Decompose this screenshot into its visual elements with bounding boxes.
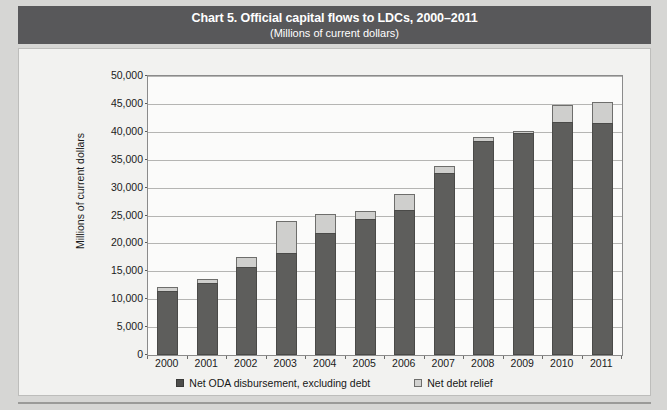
- y-axis-tick-label: 40,000: [75, 125, 143, 137]
- legend-label-net-debt-relief: Net debt relief: [427, 377, 492, 389]
- bar-group-2011: [583, 102, 623, 355]
- chart-legend: Net ODA disbursement, excluding debt Net…: [19, 377, 650, 389]
- bar-segment-net-oda: [355, 219, 376, 355]
- bar-group-2004: [306, 214, 346, 355]
- bar-stack: [394, 194, 415, 355]
- bar-stack: [513, 131, 534, 355]
- page-bottom-divider: [18, 402, 651, 404]
- x-axis-tick-label-2011: 2011: [578, 357, 624, 369]
- x-axis-tick-mark: [345, 356, 346, 359]
- bar-segment-net-debt-relief: [315, 214, 336, 233]
- bar-group-2008: [464, 137, 504, 355]
- x-axis-tick-mark: [463, 356, 464, 359]
- bar-stack: [276, 221, 297, 355]
- y-axis-tick-label: 45,000: [75, 97, 143, 109]
- chart-title-banner: Chart 5. Official capital flows to LDCs,…: [18, 6, 651, 44]
- y-axis-tick-label: 25,000: [75, 209, 143, 221]
- x-axis-tick-mark: [424, 356, 425, 359]
- plot-area: [148, 76, 622, 355]
- bar-segment-net-debt-relief: [592, 102, 613, 124]
- gridline: [148, 76, 622, 77]
- legend-item-net-oda: Net ODA disbursement, excluding debt: [176, 377, 370, 389]
- x-axis-tick-mark: [542, 356, 543, 359]
- y-axis-ticks: 05,00010,00015,00020,00025,00030,00035,0…: [71, 75, 143, 355]
- bar-segment-net-oda: [394, 210, 415, 355]
- x-axis-tick-mark: [266, 356, 267, 359]
- bar-stack: [434, 166, 455, 355]
- bar-segment-net-debt-relief: [552, 105, 573, 122]
- bar-stack: [552, 105, 573, 355]
- bar-segment-net-oda: [552, 122, 573, 355]
- legend-swatch-icon-net-oda: [176, 379, 184, 387]
- bar-segment-net-debt-relief: [276, 221, 297, 253]
- bar-segment-net-debt-relief: [355, 211, 376, 219]
- bar-stack: [157, 287, 178, 355]
- bar-segment-net-oda: [197, 283, 218, 355]
- y-axis-tick-label: 20,000: [75, 236, 143, 248]
- plot-area-frame: [147, 75, 623, 356]
- bar-segment-net-oda: [513, 133, 534, 355]
- chart-card: Millions of current dollars 05,00010,000…: [18, 48, 651, 396]
- bar-group-2007: [425, 166, 465, 355]
- y-axis-tick-label: 15,000: [75, 264, 143, 276]
- bar-group-2000: [148, 287, 188, 355]
- bar-segment-net-debt-relief: [434, 166, 455, 173]
- bar-group-2005: [346, 211, 386, 355]
- y-axis-tick-label: 10,000: [75, 292, 143, 304]
- bar-stack: [315, 214, 336, 355]
- bar-segment-net-oda: [276, 253, 297, 355]
- x-axis-tick-mark: [582, 356, 583, 359]
- bar-segment-net-oda: [592, 123, 613, 355]
- x-axis-tick-mark: [187, 356, 188, 359]
- bar-segment-net-debt-relief: [394, 194, 415, 211]
- bar-group-2003: [267, 221, 307, 355]
- x-axis-tick-mark: [503, 356, 504, 359]
- bar-group-2001: [188, 279, 228, 355]
- x-axis-tick-mark: [226, 356, 227, 359]
- x-axis: 2000200120022003200420052006200720082009…: [147, 356, 623, 372]
- y-axis-tick-label: 5,000: [75, 320, 143, 332]
- bar-segment-net-oda: [315, 233, 336, 355]
- page-title: Chart 5. Official capital flows to LDCs,…: [191, 11, 477, 26]
- bar-stack: [473, 137, 494, 355]
- y-axis-tick-label: 0: [75, 348, 143, 360]
- bar-group-2010: [543, 105, 583, 355]
- x-axis-tick-mark: [384, 356, 385, 359]
- bar-segment-net-oda: [157, 291, 178, 355]
- bar-segment-net-debt-relief: [236, 257, 257, 268]
- x-axis-tick-mark: [305, 356, 306, 359]
- bar-group-2009: [504, 131, 544, 355]
- bar-stack: [355, 211, 376, 355]
- page-subtitle: (Millions of current dollars): [270, 26, 399, 40]
- y-axis-tick-label: 35,000: [75, 153, 143, 165]
- x-axis-tick-mark: [621, 356, 622, 359]
- bar-group-2002: [227, 257, 267, 355]
- x-axis-tick-mark: [147, 356, 148, 359]
- legend-label-net-oda: Net ODA disbursement, excluding debt: [189, 377, 370, 389]
- y-axis-tick-label: 30,000: [75, 181, 143, 193]
- bar-segment-net-oda: [473, 141, 494, 355]
- y-axis-tick-label: 50,000: [75, 69, 143, 81]
- bar-segment-net-oda: [236, 267, 257, 355]
- bar-segment-net-oda: [434, 173, 455, 355]
- bar-stack: [592, 102, 613, 355]
- legend-swatch-icon-net-debt-relief: [414, 379, 422, 387]
- bar-stack: [236, 257, 257, 355]
- bar-stack: [197, 279, 218, 355]
- legend-item-net-debt-relief: Net debt relief: [414, 377, 492, 389]
- bar-group-2006: [385, 194, 425, 355]
